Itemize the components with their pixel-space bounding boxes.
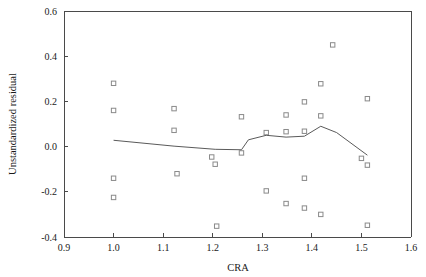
data-point (302, 100, 306, 104)
x-tick-label: 1.5 (355, 242, 368, 253)
data-point (284, 129, 288, 133)
data-point (239, 151, 243, 155)
data-point (264, 189, 268, 193)
data-point (111, 108, 115, 112)
scatter-markers (111, 43, 369, 229)
x-tick-label: 1.2 (206, 242, 219, 253)
x-axis-title: CRA (227, 262, 249, 273)
data-point (264, 130, 268, 134)
data-point (111, 195, 115, 199)
data-point (111, 176, 115, 180)
data-point (172, 106, 176, 110)
data-point (319, 212, 323, 216)
data-point (175, 172, 179, 176)
data-point (302, 206, 306, 210)
data-point (365, 163, 369, 167)
data-point (365, 96, 369, 100)
x-tick-label: 1.6 (405, 242, 418, 253)
data-point (330, 43, 334, 47)
data-point (172, 128, 176, 132)
data-point (319, 82, 323, 86)
x-tick-label: 0.9 (58, 242, 71, 253)
data-point (213, 162, 217, 166)
y-tick-label: 0.6 (45, 6, 58, 17)
y-tick-label: 0.4 (45, 51, 58, 62)
data-point (214, 224, 218, 228)
plot-canvas: 0.91.01.11.21.31.41.51.6 -0.4-0.20.00.20… (0, 0, 426, 277)
y-axis-title: Unstandardized residual (7, 73, 18, 175)
data-point (284, 113, 288, 117)
y-axis-ticks (64, 11, 68, 237)
x-tick-label: 1.1 (157, 242, 170, 253)
data-point (111, 81, 115, 85)
data-point (302, 129, 306, 133)
x-tick-labels: 0.91.01.11.21.31.41.51.6 (58, 242, 418, 253)
data-point (359, 156, 363, 160)
data-point (302, 176, 306, 180)
y-tick-label: -0.4 (41, 232, 57, 243)
data-point (239, 115, 243, 119)
data-point (284, 201, 288, 205)
x-tick-label: 1.3 (256, 242, 269, 253)
y-tick-label: -0.2 (41, 186, 57, 197)
y-tick-label: 0.0 (45, 141, 58, 152)
data-point (210, 155, 214, 159)
data-point (365, 223, 369, 227)
y-tick-labels: -0.4-0.20.00.20.40.6 (41, 6, 57, 243)
scatter-plot-figure: 0.91.01.11.21.31.41.51.6 -0.4-0.20.00.20… (0, 0, 426, 277)
x-axis-ticks (64, 233, 411, 237)
x-tick-label: 1.0 (107, 242, 120, 253)
y-tick-label: 0.2 (45, 96, 58, 107)
plot-frame (64, 11, 411, 237)
data-point (319, 114, 323, 118)
x-tick-label: 1.4 (306, 242, 319, 253)
